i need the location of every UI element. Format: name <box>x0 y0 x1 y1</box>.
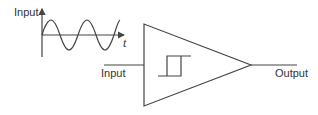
input-label: Input <box>101 67 125 79</box>
hysteresis-icon <box>158 56 191 76</box>
schmitt-trigger-diagram: Input t Input Output <box>0 0 318 115</box>
waveform-y-label: Input <box>14 6 38 18</box>
input-waveform-plot: Input t <box>14 6 127 57</box>
waveform-x-label: t <box>123 36 127 50</box>
comparator-triangle <box>144 24 251 106</box>
output-label: Output <box>275 67 308 79</box>
